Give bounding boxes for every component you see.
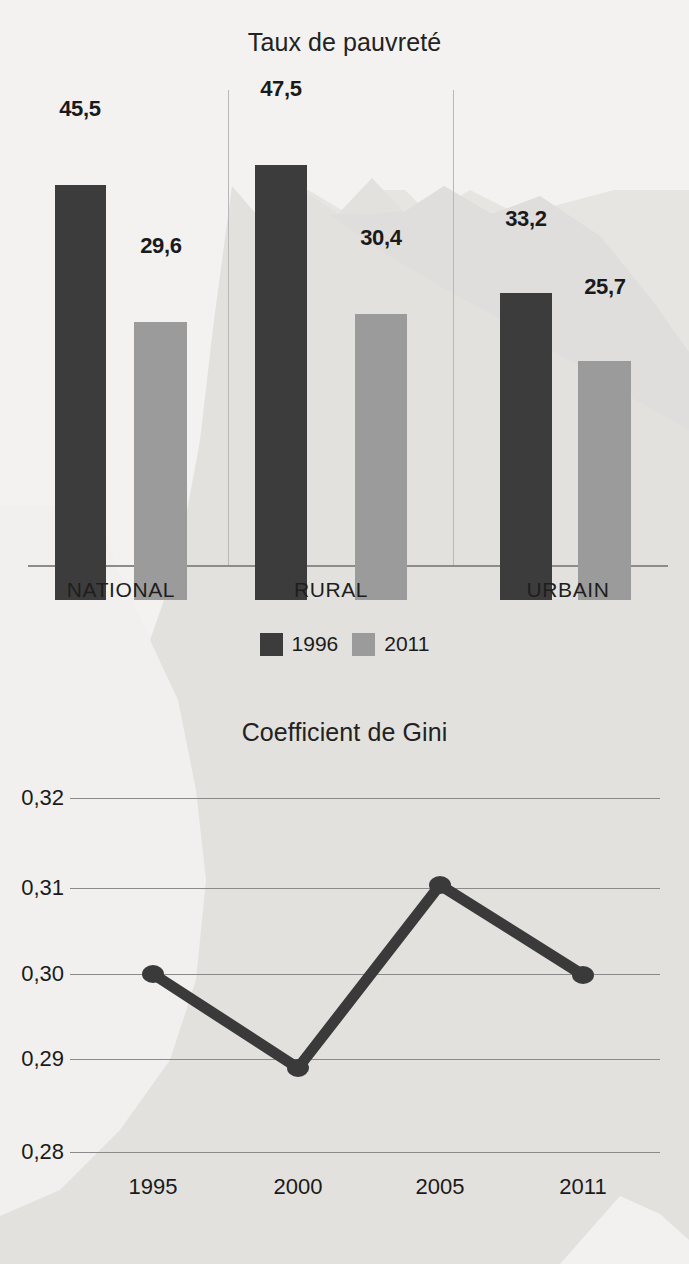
category-label-rural: RURAL [256, 578, 406, 602]
group-separator-2 [453, 90, 454, 566]
data-point-2000[interactable] [287, 1059, 309, 1077]
bar-rural-2011[interactable] [355, 314, 407, 600]
xtick-label-2000: 2000 [248, 1174, 348, 1200]
legend-label-2011: 2011 [384, 632, 429, 656]
legend-swatch-1996-icon [260, 633, 283, 656]
bar-chart-baseline [28, 565, 668, 567]
gini-coefficient-line-chart: Coefficient de Gini 0,32 0,31 0,30 0,29 … [0, 690, 689, 1264]
group-separator-1 [228, 90, 229, 566]
bar-rural-1996[interactable] [255, 165, 307, 600]
bar-value-rural-2011: 30,4 [341, 225, 421, 251]
bar-value-national-2011: 29,6 [121, 233, 201, 259]
bar-urbain-1996[interactable] [500, 293, 552, 600]
data-point-1995[interactable] [142, 965, 164, 983]
legend-item-1996[interactable]: 1996 [260, 632, 339, 656]
category-label-urbain: URBAIN [493, 578, 643, 602]
line-plot-area: 0,32 0,31 0,30 0,29 0,28 1995 2000 2005 … [0, 690, 689, 1264]
infographic-root: Taux de pauvreté 45,5 29,6 47,5 30,4 33,… [0, 0, 689, 1264]
poverty-rate-bar-chart: Taux de pauvreté 45,5 29,6 47,5 30,4 33,… [0, 0, 689, 690]
data-point-2005[interactable] [429, 876, 451, 894]
xtick-label-2005: 2005 [390, 1174, 490, 1200]
legend-item-2011[interactable]: 2011 [352, 632, 429, 656]
data-point-2011[interactable] [572, 966, 594, 984]
bar-value-urbain-2011: 25,7 [565, 274, 645, 300]
bar-chart-legend: 1996 2011 [0, 632, 689, 656]
bar-national-1996[interactable] [55, 185, 106, 600]
bar-plot-area: 45,5 29,6 47,5 30,4 33,2 25,7 NATIONAL R… [0, 0, 689, 600]
bar-value-rural-1996: 47,5 [241, 76, 321, 102]
xtick-label-2011: 2011 [533, 1174, 633, 1200]
bar-value-urbain-1996: 33,2 [486, 206, 566, 232]
legend-swatch-2011-icon [352, 633, 375, 656]
xtick-label-1995: 1995 [103, 1174, 203, 1200]
bar-urbain-2011[interactable] [578, 361, 631, 600]
legend-label-1996: 1996 [292, 632, 339, 656]
category-label-national: NATIONAL [46, 578, 196, 602]
bar-national-2011[interactable] [134, 322, 187, 600]
bar-value-national-1996: 45,5 [40, 96, 120, 122]
